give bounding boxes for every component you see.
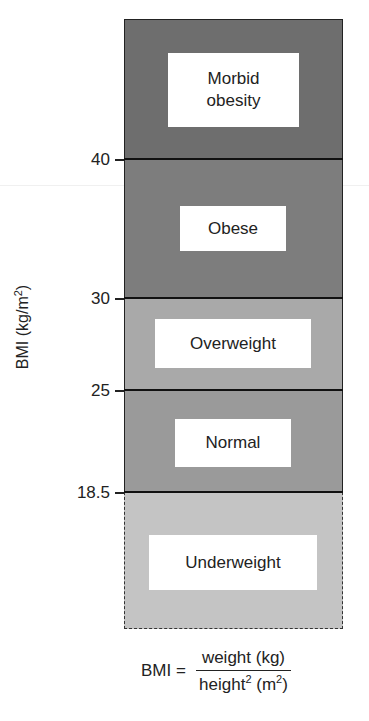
divider-25 xyxy=(124,389,343,391)
band-obese: Obese xyxy=(124,159,343,298)
label-underweight: Underweight xyxy=(149,535,317,590)
band-overweight: Overweight xyxy=(124,298,343,390)
formula-denominator: height2 (m2) xyxy=(199,671,288,695)
formula-fraction: weight (kg) height2 (m2) xyxy=(196,648,291,695)
label-morbid-obesity: Morbid obesity xyxy=(168,53,299,127)
band-underweight: Underweight xyxy=(124,492,343,629)
label-normal: Normal xyxy=(175,419,291,467)
bmi-column: Morbid obesity Obese Overweight Normal U… xyxy=(124,19,343,629)
divider-30 xyxy=(124,297,343,299)
divider-40 xyxy=(124,158,343,160)
label-overweight: Overweight xyxy=(155,319,311,368)
bmi-formula: BMI = weight (kg) height2 (m2) xyxy=(141,648,291,695)
tick-label-30: 30 xyxy=(91,289,110,309)
band-morbid-obesity: Morbid obesity xyxy=(124,19,343,159)
tick-18-5 xyxy=(115,492,124,494)
tick-label-18-5: 18.5 xyxy=(77,483,110,503)
tick-25 xyxy=(115,390,124,392)
divider-18-5 xyxy=(124,491,343,493)
label-obese: Obese xyxy=(180,206,286,251)
tick-label-40: 40 xyxy=(91,150,110,170)
tick-30 xyxy=(115,298,124,300)
y-axis-title: BMI (kg/m2) xyxy=(12,285,32,369)
tick-label-25: 25 xyxy=(91,381,110,401)
formula-numerator: weight (kg) xyxy=(196,648,291,671)
tick-40 xyxy=(115,159,124,161)
formula-lhs: BMI = xyxy=(141,661,186,681)
band-normal: Normal xyxy=(124,390,343,492)
